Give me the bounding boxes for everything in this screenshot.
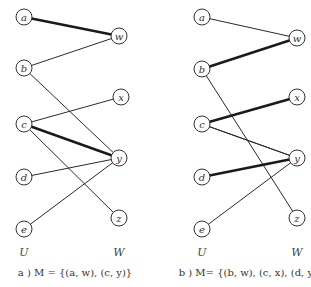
node-w: w [289, 30, 305, 46]
edge-b-z [202, 69, 297, 218]
node-x: x [113, 89, 129, 105]
caption-a: a ) M = {(a, w), (c, y)} [18, 267, 132, 278]
node-x: x [289, 89, 305, 105]
node-label: x [294, 92, 300, 103]
node-label: a [199, 12, 205, 23]
node-label: w [115, 31, 124, 42]
node-d: d [16, 169, 32, 185]
node-b: b [194, 61, 210, 77]
node-a: a [16, 9, 32, 25]
edge-a-w [202, 17, 297, 38]
node-label: z [293, 213, 300, 224]
node-z: z [111, 210, 127, 226]
node-e: e [16, 221, 32, 237]
edge-b-w-matched [202, 38, 297, 69]
set-label-w-b: W [291, 246, 304, 259]
node-label: c [21, 119, 27, 130]
node-label: y [115, 153, 122, 164]
node-b: b [16, 60, 32, 76]
node-y: y [289, 150, 305, 166]
node-label: e [21, 224, 27, 235]
node-label: b [21, 63, 27, 74]
edge-e-y [24, 158, 119, 229]
set-label-u-a: U [19, 246, 29, 259]
edge-c-x [24, 97, 121, 124]
node-a: a [194, 9, 210, 25]
edge-c-z [24, 124, 119, 218]
set-label-u-b: U [197, 246, 207, 259]
node-d: d [194, 169, 210, 185]
node-label: e [199, 224, 205, 235]
edge-c-y-matched [24, 124, 119, 158]
node-z: z [289, 210, 305, 226]
node-label: b [199, 64, 205, 75]
node-label: y [293, 153, 300, 164]
node-c: c [16, 116, 32, 132]
node-label: a [21, 12, 27, 23]
node-c: c [194, 116, 210, 132]
diagram-b: abcdewxyz [194, 9, 305, 237]
edge-c-y [202, 124, 297, 158]
bipartite-matching-figure: abcdewxyz abcdewxyz U W U W a ) M = {(a,… [0, 0, 311, 287]
edge-b-w [24, 36, 119, 68]
node-label: d [199, 172, 205, 183]
edge-d-y-matched [202, 158, 297, 177]
diagram-a: abcdewxyz [16, 9, 129, 237]
node-label: d [21, 172, 27, 183]
edge-b-y [24, 68, 119, 158]
node-label: c [199, 119, 205, 130]
node-label: x [118, 92, 124, 103]
node-label: z [115, 213, 122, 224]
node-e: e [194, 221, 210, 237]
caption-b: b ) M= {(b, w), (c, x), (d, y)} [179, 267, 311, 278]
node-label: w [293, 33, 302, 44]
node-w: w [111, 28, 127, 44]
node-y: y [111, 150, 127, 166]
set-label-w-a: W [113, 246, 126, 259]
edge-a-w-matched [24, 17, 119, 36]
edge-c-x-matched [202, 97, 297, 124]
edge-d-y [24, 158, 119, 177]
